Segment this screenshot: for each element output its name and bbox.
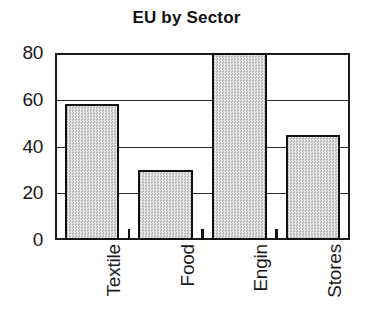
x-tick-label: Stores (313, 244, 335, 298)
gridline (57, 193, 348, 194)
x-tick-label-text: Engin (250, 244, 272, 292)
x-axis: TextileFoodEnginStores (55, 244, 350, 333)
x-tick-label-text: Textile (103, 244, 125, 296)
y-tick-label: 20 (22, 182, 43, 204)
gridline (57, 147, 348, 148)
chart-title: EU by Sector (0, 8, 373, 28)
y-axis: 020406080 (0, 53, 49, 240)
y-tick-label: 80 (22, 42, 43, 64)
gridline (57, 100, 348, 101)
x-tick-label-text: Stores (324, 244, 346, 298)
y-tick-label: 40 (22, 136, 43, 158)
x-tick-label: Textile (92, 244, 114, 296)
x-tick-label: Food (166, 244, 188, 287)
bar-chart-figure: EU by Sector 020406080 TextileFoodEnginS… (0, 0, 373, 333)
y-tick-label: 0 (33, 229, 43, 251)
y-tick-label: 60 (22, 89, 43, 111)
x-tick-label: Engin (239, 244, 261, 292)
x-tick-label-text: Food (177, 244, 199, 287)
plot-area (55, 53, 350, 240)
